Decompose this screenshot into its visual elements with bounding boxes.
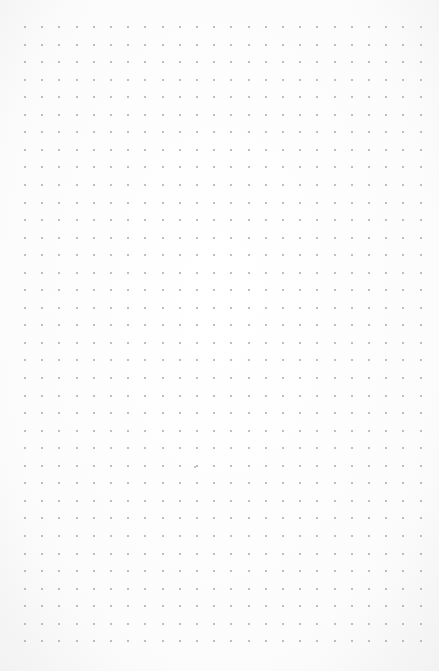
grid-dot [334, 184, 336, 186]
grid-dot [162, 289, 164, 291]
grid-dot [368, 535, 370, 537]
grid-dot [334, 517, 336, 519]
grid-dot [41, 535, 43, 537]
grid-dot [351, 517, 353, 519]
grid-dot [144, 342, 146, 344]
grid-dot [385, 202, 387, 204]
grid-dot [351, 254, 353, 256]
grid-dot [41, 79, 43, 81]
grid-dot [93, 535, 95, 537]
grid-dot [76, 219, 78, 221]
grid-dot [282, 500, 284, 502]
grid-dot [351, 482, 353, 484]
grid-dot [299, 588, 301, 590]
grid-dot [144, 359, 146, 361]
grid-dot [179, 79, 181, 81]
grid-dot [368, 96, 370, 98]
grid-dot [213, 272, 215, 274]
grid-dot [334, 44, 336, 46]
grid-dot [299, 395, 301, 397]
grid-dot [196, 184, 198, 186]
grid-dot [282, 96, 284, 98]
grid-dot [248, 166, 250, 168]
grid-dot [248, 237, 250, 239]
grid-dot [299, 482, 301, 484]
grid-dot [58, 131, 60, 133]
grid-dot [110, 219, 112, 221]
grid-dot [334, 202, 336, 204]
grid-dot [144, 465, 146, 467]
grid-dot [402, 79, 404, 81]
grid-dot [230, 395, 232, 397]
grid-dot [351, 465, 353, 467]
grid-dot [265, 605, 267, 607]
grid-dot [162, 623, 164, 625]
grid-dot [58, 412, 60, 414]
grid-dot [24, 430, 26, 432]
grid-dot [76, 395, 78, 397]
grid-dot [179, 623, 181, 625]
grid-dot [265, 553, 267, 555]
grid-dot [368, 166, 370, 168]
grid-dot [93, 395, 95, 397]
grid-dot [282, 26, 284, 28]
grid-dot [420, 131, 422, 133]
grid-dot [41, 342, 43, 344]
grid-dot [230, 623, 232, 625]
grid-dot [368, 395, 370, 397]
grid-dot [316, 623, 318, 625]
grid-dot [127, 605, 129, 607]
grid-dot [402, 96, 404, 98]
grid-dot [144, 289, 146, 291]
grid-dot [265, 430, 267, 432]
grid-dot [144, 184, 146, 186]
grid-dot [93, 114, 95, 116]
grid-dot [351, 324, 353, 326]
grid-dot [144, 324, 146, 326]
grid-dot [248, 517, 250, 519]
grid-dot [299, 359, 301, 361]
grid-dot [24, 307, 26, 309]
grid-dot [265, 342, 267, 344]
grid-dot [144, 114, 146, 116]
grid-dot [196, 359, 198, 361]
grid-dot [299, 166, 301, 168]
grid-dot [368, 342, 370, 344]
grid-dot [110, 342, 112, 344]
grid-dot [230, 482, 232, 484]
grid-dot [93, 79, 95, 81]
grid-dot [368, 44, 370, 46]
grid-dot [368, 324, 370, 326]
grid-dot [213, 395, 215, 397]
grid-dot [196, 96, 198, 98]
grid-dot [265, 465, 267, 467]
grid-dot [93, 272, 95, 274]
grid-dot [58, 96, 60, 98]
grid-dot [385, 640, 387, 642]
grid-dot [265, 79, 267, 81]
grid-dot [368, 447, 370, 449]
grid-dot [76, 430, 78, 432]
grid-dot [351, 342, 353, 344]
grid-dot [299, 96, 301, 98]
grid-dot [351, 166, 353, 168]
grid-dot [144, 500, 146, 502]
grid-dot [265, 114, 267, 116]
grid-dot [162, 605, 164, 607]
grid-dot [213, 605, 215, 607]
grid-dot [58, 430, 60, 432]
grid-dot [299, 149, 301, 151]
grid-dot [162, 44, 164, 46]
grid-dot [162, 430, 164, 432]
grid-dot [265, 166, 267, 168]
grid-dot [420, 570, 422, 572]
grid-dot [299, 640, 301, 642]
grid-dot [41, 359, 43, 361]
grid-dot [41, 517, 43, 519]
grid-dot [385, 26, 387, 28]
grid-dot [76, 412, 78, 414]
grid-dot [110, 517, 112, 519]
grid-dot [127, 79, 129, 81]
grid-dot [351, 623, 353, 625]
grid-dot [385, 412, 387, 414]
